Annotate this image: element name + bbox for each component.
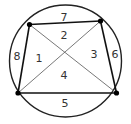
inscribed-quadrilateral-diagram: 72813645 <box>0 0 131 124</box>
region-label: 5 <box>62 97 69 110</box>
region-label: 4 <box>61 69 68 82</box>
region-label: 7 <box>61 11 68 24</box>
region-label: 8 <box>14 50 21 63</box>
region-label: 3 <box>91 48 98 61</box>
region-label: 6 <box>112 48 119 61</box>
region-label: 2 <box>61 29 68 42</box>
region-label: 1 <box>36 52 43 65</box>
diagonal-2 <box>18 21 101 93</box>
vertex-top-left <box>27 22 32 27</box>
vertex-top-right <box>98 18 103 23</box>
vertex-bottom-left <box>15 90 20 95</box>
vertex-bottom-right <box>114 90 119 95</box>
